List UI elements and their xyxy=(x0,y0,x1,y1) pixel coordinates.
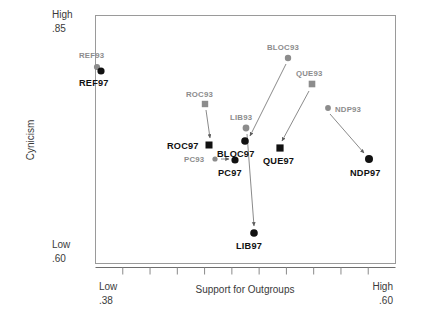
scatter-plot: REF93REF97ROC93ROC97PC93PC97LIB93BLOC97B… xyxy=(0,0,422,314)
square-marker xyxy=(309,81,316,88)
circle-marker xyxy=(241,137,249,145)
point-label-pc93: PC93 xyxy=(184,155,205,164)
point-label-roc97: ROC97 xyxy=(167,141,199,151)
data-point-bloc93[interactable]: BLOC93 xyxy=(267,43,299,61)
point-layer: REF93REF97ROC93ROC97PC93PC97LIB93BLOC97B… xyxy=(79,43,381,251)
x-axis-high-word: High xyxy=(372,281,393,292)
y-axis-title: Cynicism xyxy=(25,120,36,161)
data-point-pc97[interactable]: PC97 xyxy=(218,156,242,178)
y-axis-low-word: Low xyxy=(52,239,71,250)
x-axis xyxy=(96,268,396,275)
point-label-que93: QUE93 xyxy=(296,69,323,78)
square-marker xyxy=(206,142,213,149)
point-label-lib93: LIB93 xyxy=(230,113,253,122)
y-axis-high-word: High xyxy=(52,9,73,20)
y-axis-low-value: .60 xyxy=(52,253,66,264)
circle-marker xyxy=(365,155,373,163)
data-point-que97[interactable]: QUE97 xyxy=(263,144,294,166)
data-point-bloc97[interactable]: BLOC97 xyxy=(217,137,254,159)
data-point-lib97[interactable]: LIB97 xyxy=(236,229,262,251)
x-axis-low-word: Low xyxy=(99,281,118,292)
data-point-ndp93[interactable]: NDP93 xyxy=(325,105,361,114)
transition-arrow-lib93-to-lib97 xyxy=(247,134,254,226)
point-label-que97: QUE97 xyxy=(263,156,294,166)
point-label-ref97: REF97 xyxy=(79,78,109,88)
circle-marker xyxy=(243,125,250,132)
x-axis-title: Support for Outgroups xyxy=(196,284,295,295)
transition-arrow-roc93-to-roc97 xyxy=(206,110,210,138)
data-point-que93[interactable]: QUE93 xyxy=(296,69,323,87)
point-label-ndp97: NDP97 xyxy=(350,168,381,178)
x-axis-high-value: .60 xyxy=(379,295,393,306)
square-marker xyxy=(202,101,208,107)
arrow-layer xyxy=(206,64,364,226)
square-marker xyxy=(276,144,283,151)
data-point-ref93[interactable]: REF93 xyxy=(79,51,105,70)
point-label-ndp93: NDP93 xyxy=(335,105,362,114)
data-point-ndp97[interactable]: NDP97 xyxy=(350,155,381,178)
transition-arrow-bloc93-to-bloc97 xyxy=(250,64,286,136)
circle-marker xyxy=(97,67,104,74)
data-point-roc93[interactable]: ROC93 xyxy=(186,90,213,107)
point-label-pc97: PC97 xyxy=(218,168,242,178)
chart-container: REF93REF97ROC93ROC97PC93PC97LIB93BLOC97B… xyxy=(0,0,422,314)
transition-arrow-que93-to-que97 xyxy=(282,91,309,141)
point-label-lib97: LIB97 xyxy=(236,241,262,251)
data-point-pc93[interactable]: PC93 xyxy=(184,155,218,164)
point-label-roc93: ROC93 xyxy=(186,90,213,99)
point-label-bloc93: BLOC93 xyxy=(267,43,299,52)
data-point-lib93[interactable]: LIB93 xyxy=(230,113,253,131)
circle-marker xyxy=(325,105,331,111)
x-axis-ticks xyxy=(123,268,368,275)
circle-marker xyxy=(285,55,291,61)
data-point-roc97[interactable]: ROC97 xyxy=(167,141,213,151)
point-label-ref93: REF93 xyxy=(79,51,105,60)
x-axis-low-value: .38 xyxy=(99,295,113,306)
data-point-ref97[interactable]: REF97 xyxy=(79,67,109,88)
circle-marker xyxy=(250,229,258,237)
transition-arrow-ndp93-to-ndp97 xyxy=(330,114,364,153)
y-axis-high-value: .85 xyxy=(52,23,66,34)
point-label-bloc97: BLOC97 xyxy=(217,149,254,159)
